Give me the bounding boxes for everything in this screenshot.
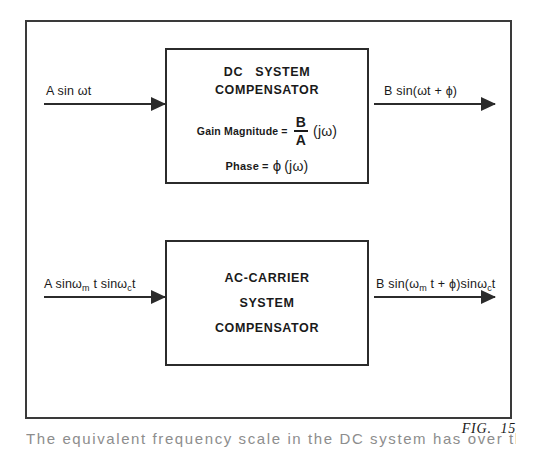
dc-output-signal-label: B sin(ωt + ϕ): [384, 84, 457, 98]
dc-input-arrow: [44, 103, 165, 105]
gain-fraction: B A: [294, 114, 308, 148]
dc-transfer-function: Gain Magnitude = B A (jω) Phase = ϕ (jω): [167, 114, 367, 174]
gain-magnitude-label: Gain Magnitude: [197, 125, 279, 137]
ac-output-subscript-c: c: [487, 283, 492, 293]
dc-output-arrow: [374, 103, 495, 105]
phase-equals-sign: =: [262, 160, 269, 172]
gain-equals-sign: =: [281, 125, 287, 137]
phase-symbol: ϕ: [273, 157, 282, 174]
gain-argument: (jω): [313, 123, 337, 139]
dc-block-title-line2: COMPENSATOR: [215, 81, 319, 99]
ac-output-subscript-m: m: [419, 283, 427, 293]
gain-numerator: B: [294, 114, 308, 130]
page-body-text-clipped: The equivalent frequency scale in the DC…: [26, 433, 516, 453]
phase-argument: (jω): [284, 158, 308, 174]
ac-input-subscript-c: c: [127, 283, 132, 293]
ac-input-subscript-m: m: [82, 283, 90, 293]
ac-input-suffix: t: [132, 277, 136, 291]
ac-input-prefix: A sinω: [44, 277, 82, 291]
ac-output-suffix: t: [492, 277, 496, 291]
ac-output-mid: t + ϕ)sinω: [427, 277, 487, 291]
phase-label: Phase: [226, 160, 259, 172]
ac-block-title-line1: AC-CARRIER: [224, 266, 309, 291]
ac-output-prefix: B sin(ω: [376, 277, 419, 291]
ac-carrier-system-compensator-block: AC-CARRIER SYSTEM COMPENSATOR: [165, 240, 369, 366]
dc-system-compensator-block: DC SYSTEM COMPENSATOR Gain Magnitude = B…: [165, 48, 369, 184]
phase-equation: Phase = ϕ (jω): [226, 157, 309, 174]
ac-input-mid: t sinω: [90, 277, 128, 291]
ac-input-arrow: [44, 296, 165, 298]
ac-block-title-line3: COMPENSATOR: [215, 316, 319, 341]
ac-output-signal-label: B sin(ωm t + ϕ)sinωct: [376, 277, 496, 291]
ac-output-arrow: [374, 296, 495, 298]
dc-block-title-line1: DC SYSTEM: [224, 63, 310, 81]
ac-input-signal-label: A sinωm t sinωct: [44, 277, 136, 291]
ac-block-title-line2: SYSTEM: [240, 291, 295, 316]
gain-magnitude-equation: Gain Magnitude = B A (jω): [197, 114, 337, 148]
gain-denominator: A: [294, 132, 308, 148]
dc-input-signal-label: A sin ωt: [46, 84, 91, 98]
body-text-line: The equivalent frequency scale in the DC…: [26, 433, 516, 447]
